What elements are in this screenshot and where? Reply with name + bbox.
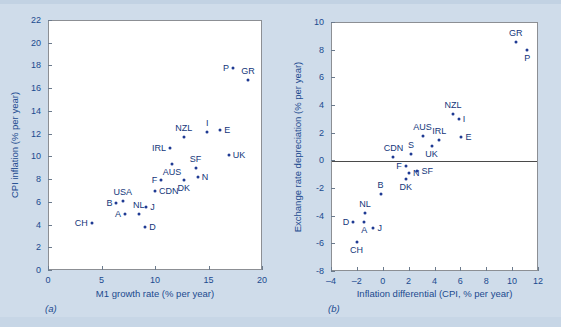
data-point-b <box>115 201 118 204</box>
x-tick-mark <box>331 267 332 271</box>
y-tick-label: 22 <box>31 16 41 25</box>
y-tick-mark <box>48 270 52 271</box>
point-label-usa: USA <box>114 188 133 197</box>
y-tick-mark <box>331 133 335 134</box>
y-tick-label: 0 <box>319 156 324 165</box>
data-point-ch <box>90 222 93 225</box>
x-tick-mark <box>512 267 513 271</box>
point-label-dk: DK <box>178 184 191 193</box>
x-tick-label: 4 <box>432 277 437 286</box>
x-tick-label: 5 <box>99 276 104 285</box>
point-label-i: I <box>206 119 209 128</box>
point-label-nzl: NZL <box>175 124 192 133</box>
y-tick-label: 2 <box>36 243 41 252</box>
data-point-nl <box>137 213 140 216</box>
panel-caption-a: (a) <box>45 303 57 314</box>
x-tick-label: –4 <box>326 277 336 286</box>
data-point-f <box>404 165 407 168</box>
x-tick-mark <box>538 267 539 271</box>
y-tick-label: -4 <box>316 211 324 220</box>
point-label-d: D <box>343 217 350 226</box>
data-point-aus <box>421 134 424 137</box>
zero-reference-line <box>332 161 537 162</box>
point-label-ch: CH <box>350 246 363 255</box>
y-tick-mark <box>331 160 335 161</box>
x-tick-mark <box>409 267 410 271</box>
x-tick-mark <box>155 266 156 270</box>
x-tick-label: –2 <box>352 277 362 286</box>
data-point-sf <box>416 170 419 173</box>
x-tick-mark <box>383 267 384 271</box>
point-label-nzl: NZL <box>444 101 461 110</box>
y-tick-mark <box>331 77 335 78</box>
data-point-uk <box>430 145 433 148</box>
y-axis-title-b: Exchange rate depreciation (% per year) <box>292 61 303 232</box>
y-tick-label: -8 <box>316 267 324 276</box>
point-label-a: A <box>115 210 121 219</box>
data-point-nzl <box>182 135 185 138</box>
data-point-i <box>206 131 209 134</box>
point-label-p: P <box>524 54 530 63</box>
data-point-irl <box>168 147 171 150</box>
data-point-gr <box>514 40 517 43</box>
point-label-f: F <box>396 162 402 171</box>
plot-area-b: DCHANLJBCDNFDKNSSFAUSUKIRLNZLIEGRP <box>332 23 537 270</box>
data-point-d <box>144 225 147 228</box>
y-tick-label: 8 <box>319 45 324 54</box>
y-tick-label: 10 <box>314 18 324 27</box>
data-point-j <box>145 206 148 209</box>
point-label-e: E <box>224 126 230 135</box>
data-point-s <box>409 152 412 155</box>
x-tick-label: 0 <box>380 277 385 286</box>
bottom-edge-band <box>0 317 561 327</box>
data-point-nzl <box>451 113 454 116</box>
y-tick-mark <box>331 50 335 51</box>
point-label-uk: UK <box>425 150 438 159</box>
x-tick-label: 10 <box>507 277 517 286</box>
y-tick-label: 4 <box>319 101 324 110</box>
y-tick-label: -2 <box>316 184 324 193</box>
data-point-dk <box>404 177 407 180</box>
data-point-i <box>457 118 460 121</box>
y-tick-mark <box>48 111 52 112</box>
x-tick-label: 15 <box>203 276 213 285</box>
x-tick-label: 20 <box>257 276 267 285</box>
plot-frame-b: DCHANLJBCDNFDKNSSFAUSUKIRLNZLIEGRP <box>331 22 538 271</box>
data-point-cdn <box>153 190 156 193</box>
data-point-gr <box>247 78 250 81</box>
point-label-nl: NL <box>359 200 371 209</box>
data-point-e <box>460 136 463 139</box>
point-label-d: D <box>149 222 156 231</box>
top-edge-band <box>0 0 561 4</box>
x-tick-label: 8 <box>484 277 489 286</box>
y-tick-label: 6 <box>36 197 41 206</box>
y-tick-label: 12 <box>31 129 41 138</box>
y-tick-mark <box>48 156 52 157</box>
y-tick-mark <box>48 247 52 248</box>
point-label-dk: DK <box>399 183 412 192</box>
y-tick-label: 18 <box>31 61 41 70</box>
y-tick-label: 2 <box>319 128 324 137</box>
point-label-j: J <box>377 223 382 232</box>
point-label-sf: SF <box>190 155 202 164</box>
data-point-cdn <box>392 156 395 159</box>
point-label-cdn: CDN <box>384 144 404 153</box>
data-point-dk <box>182 179 185 182</box>
y-tick-label: 20 <box>31 38 41 47</box>
x-tick-label: 12 <box>533 277 543 286</box>
x-tick-label: 0 <box>45 276 50 285</box>
data-point-a <box>363 221 366 224</box>
y-tick-label: 10 <box>31 152 41 161</box>
data-point-p <box>526 48 529 51</box>
point-label-e: E <box>465 133 471 142</box>
point-label-irl: IRL <box>152 144 166 153</box>
y-tick-mark <box>48 179 52 180</box>
point-label-b: B <box>106 198 112 207</box>
data-point-d <box>352 220 355 223</box>
point-label-nl: NL <box>133 201 145 210</box>
y-tick-mark <box>331 22 335 23</box>
point-label-p: P <box>223 63 229 72</box>
point-label-i: I <box>463 115 466 124</box>
data-point-b <box>379 192 382 195</box>
x-tick-label: 6 <box>458 277 463 286</box>
